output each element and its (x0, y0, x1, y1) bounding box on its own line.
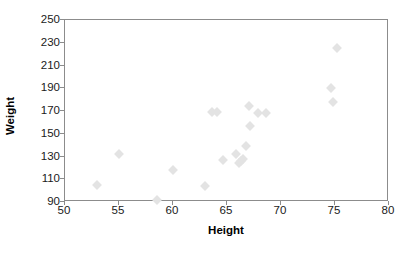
y-tick-label: 110 (4, 173, 60, 184)
x-tick-mark (118, 201, 119, 205)
data-point (114, 149, 124, 159)
data-point (245, 121, 255, 131)
y-tick-mark (60, 42, 64, 43)
x-tick-label: 55 (98, 204, 138, 217)
y-tick-label: 230 (4, 36, 60, 47)
y-tick-mark (60, 65, 64, 66)
data-point (218, 155, 228, 165)
y-tick-mark (60, 133, 64, 134)
data-point (326, 83, 336, 93)
x-tick-mark (226, 201, 227, 205)
x-tick-label: 80 (368, 204, 408, 217)
x-tick-label: 70 (260, 204, 300, 217)
data-point (261, 108, 271, 118)
data-point (332, 43, 342, 53)
x-axis: 50556065707580 (0, 204, 415, 220)
x-axis-title: Height (64, 224, 388, 236)
x-tick-mark (64, 201, 65, 205)
data-point (212, 107, 222, 117)
x-tick-mark (334, 201, 335, 205)
y-tick-mark (60, 178, 64, 179)
y-tick-label: 130 (4, 150, 60, 161)
y-tick-label: 210 (4, 59, 60, 70)
x-tick-mark (388, 201, 389, 205)
y-tick-mark (60, 19, 64, 20)
x-tick-label: 75 (314, 204, 354, 217)
x-tick-label: 50 (44, 204, 84, 217)
y-tick-mark (60, 156, 64, 157)
data-point (328, 97, 338, 107)
data-point (241, 141, 251, 151)
x-tick-label: 60 (152, 204, 192, 217)
y-tick-mark (60, 87, 64, 88)
y-tick-mark (60, 110, 64, 111)
x-tick-mark (172, 201, 173, 205)
x-tick-label: 65 (206, 204, 246, 217)
data-point (244, 101, 254, 111)
scatter-chart: 90110130150170190210230250 Weight 505560… (0, 0, 415, 258)
data-point (200, 181, 210, 191)
data-point (168, 165, 178, 175)
x-tick-mark (280, 201, 281, 205)
plot-area (64, 19, 388, 201)
y-tick-label: 250 (4, 14, 60, 25)
y-axis-title: Weight (4, 86, 16, 146)
data-point (92, 180, 102, 190)
